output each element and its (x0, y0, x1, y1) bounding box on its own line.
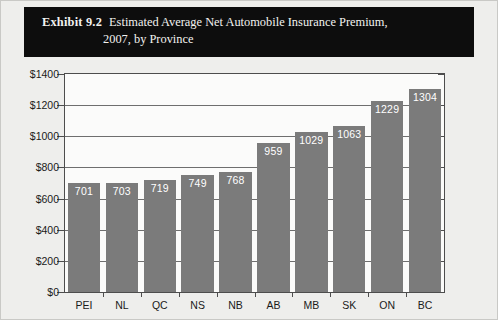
bar[interactable]: 1304 (409, 89, 441, 292)
bar-value-label: 1229 (371, 103, 403, 115)
x-axis-tick (368, 293, 369, 297)
bar-value-label: 719 (144, 182, 176, 194)
bar-value-label: 703 (106, 185, 138, 197)
y-axis-tick-label: $1200 (0, 99, 59, 111)
bar-slot: 959 (255, 74, 293, 292)
bar-slot: 1304 (406, 74, 444, 292)
x-axis-tick-label: QC (152, 299, 168, 311)
x-axis-tick (255, 293, 256, 297)
x-axis-tick-label: NB (228, 299, 243, 311)
bar[interactable]: 1029 (295, 132, 327, 292)
x-axis-tick (217, 293, 218, 297)
bar[interactable]: 959 (257, 143, 289, 292)
x-axis-tick (141, 293, 142, 297)
x-axis-tick (330, 293, 331, 297)
y-axis-tick-label: $600 (0, 193, 59, 205)
y-axis-tick-right (438, 292, 445, 293)
exhibit-number-label: Exhibit 9.2 (42, 15, 102, 29)
x-axis-tick (179, 293, 180, 297)
x-axis-tick-label: MB (303, 299, 319, 311)
y-axis-tick-label: $1000 (0, 130, 59, 142)
bar-slot: 749 (179, 74, 217, 292)
x-axis-tick-label: NL (115, 299, 128, 311)
bar-slot: 768 (217, 74, 255, 292)
x-axis-tick-label: SK (342, 299, 356, 311)
bar-value-label: 768 (219, 174, 251, 186)
x-axis-tick (103, 293, 104, 297)
bar[interactable]: 703 (106, 183, 138, 292)
bar[interactable]: 749 (181, 175, 213, 292)
y-axis-tick-label: $200 (0, 255, 59, 267)
exhibit-figure: Exhibit 9.2Estimated Average Net Automob… (0, 0, 498, 320)
bars-container: 7017037197497689591029106312291304 (65, 74, 444, 292)
bar[interactable]: 1063 (333, 126, 365, 292)
exhibit-title-line-2: 2007, by Province (42, 31, 474, 48)
bar-slot: 701 (65, 74, 103, 292)
bar-value-label: 749 (181, 177, 213, 189)
x-axis-tick-label: PEI (75, 299, 92, 311)
bar[interactable]: 768 (219, 172, 251, 292)
bar-slot: 1029 (292, 74, 330, 292)
x-axis-tick (406, 293, 407, 297)
bar-slot: 703 (103, 74, 141, 292)
y-axis-tick-label: $0 (0, 286, 59, 298)
bar[interactable]: 701 (68, 183, 100, 292)
y-axis-tick-label: $800 (0, 161, 59, 173)
exhibit-title-text: Estimated Average Net Automobile Insuran… (109, 15, 388, 29)
bar[interactable]: 1229 (371, 101, 403, 292)
bar-slot: 719 (141, 74, 179, 292)
x-axis-tick-label: AB (266, 299, 280, 311)
exhibit-header-band: Exhibit 9.2Estimated Average Net Automob… (24, 7, 474, 57)
bar-chart: $0$200$400$600$800$1000$1200$1400 701703… (1, 59, 498, 319)
x-axis-tick-label: BC (418, 299, 433, 311)
bar-slot: 1229 (368, 74, 406, 292)
x-axis-tick (292, 293, 293, 297)
x-axis-tick-label: NS (190, 299, 205, 311)
bar-value-label: 701 (68, 185, 100, 197)
exhibit-title-line-1: Exhibit 9.2Estimated Average Net Automob… (42, 14, 474, 31)
bar-value-label: 1063 (333, 128, 365, 140)
bar[interactable]: 719 (144, 180, 176, 292)
bar-value-label: 1304 (409, 91, 441, 103)
bar-slot: 1063 (330, 74, 368, 292)
x-axis-tick-label: ON (379, 299, 395, 311)
y-axis-tick-label: $1400 (0, 68, 59, 80)
y-axis-tick-label: $400 (0, 224, 59, 236)
bar-value-label: 1029 (295, 134, 327, 146)
bar-value-label: 959 (257, 145, 289, 157)
